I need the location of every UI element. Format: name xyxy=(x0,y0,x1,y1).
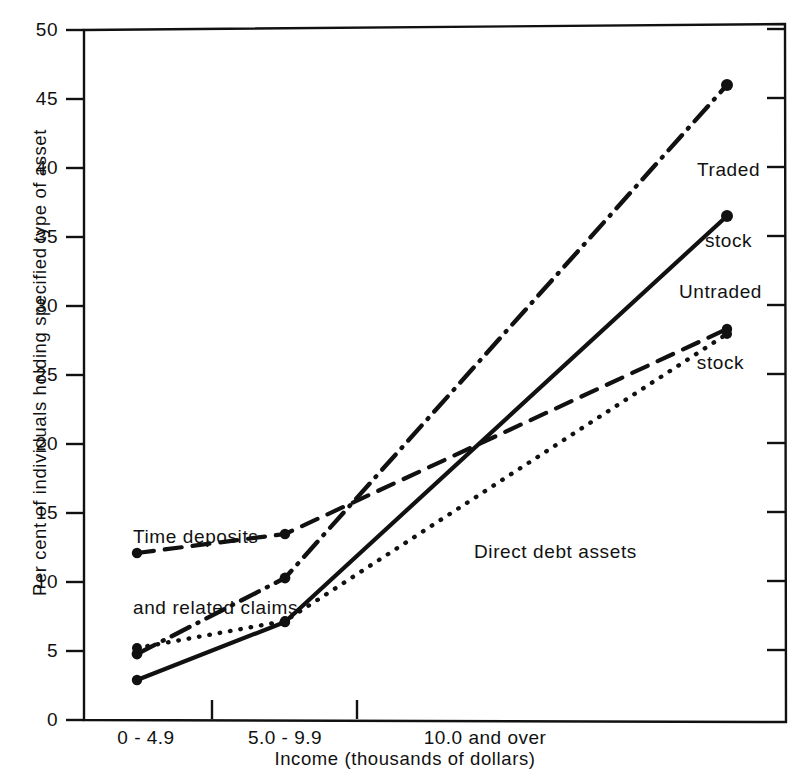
annotation-untraded-stock-line2: stock xyxy=(679,351,762,375)
annotation-direct-debt-assets: Direct debt assets xyxy=(474,492,637,611)
annotation-untraded-stock-line1: Untraded xyxy=(679,280,762,304)
data-point xyxy=(132,675,142,685)
y-tick-label-50: 50 xyxy=(12,19,58,41)
annotation-time-deposits-line1: Time deposits xyxy=(133,525,298,549)
annotation-time-deposits-line2: and related claims xyxy=(133,596,298,620)
chart-figure: 50 45 40 35 30 25 20 15 10 5 0 0 - 4.9 5… xyxy=(0,0,810,782)
annotation-time-deposits: Time deposits and related claims xyxy=(133,477,298,667)
x-tick-label-0-4.9: 0 - 4.9 xyxy=(117,727,174,749)
annotation-direct-debt-line1: Direct debt assets xyxy=(474,540,637,564)
y-tick-label-45: 45 xyxy=(12,88,58,110)
x-axis-title: Income (thousands of dollars) xyxy=(0,748,810,770)
x-axis-ticks xyxy=(212,700,357,719)
x-tick-label-10.0-and-over: 10.0 and over xyxy=(424,727,547,749)
x-tick-label-5.0-9.9: 5.0 - 9.9 xyxy=(248,727,322,749)
y-axis-ticks-left xyxy=(66,30,84,720)
y-axis-ticks-right xyxy=(767,29,785,650)
annotation-traded-stock-line1: Traded xyxy=(697,158,760,182)
annotation-untraded-stock: Untraded stock xyxy=(679,232,762,422)
y-tick-label-5: 5 xyxy=(12,640,58,662)
y-axis-title: Per cent of individuals holding specifie… xyxy=(29,176,51,596)
data-point xyxy=(721,79,733,91)
y-tick-label-0: 0 xyxy=(12,709,58,731)
